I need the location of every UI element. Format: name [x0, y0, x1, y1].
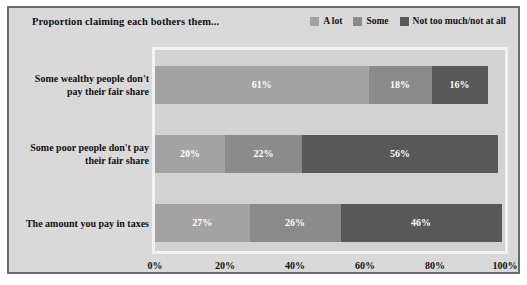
- x-axis-tick-label: 0%: [148, 260, 163, 271]
- chart-header: Proportion claiming each bothers them...…: [9, 8, 518, 42]
- bar-segment[interactable]: 27%: [155, 204, 250, 242]
- legend-item-2[interactable]: Not too much/not at all: [400, 17, 506, 27]
- bar-row-label-line2: their fair share: [23, 154, 149, 167]
- bar-segment[interactable]: 61%: [155, 66, 369, 104]
- bar-row-label-line2: pay their fair share: [23, 85, 149, 98]
- bar-row-label: Some poor people don't paytheir fair sha…: [23, 141, 149, 167]
- bar-row-label-line1: The amount you pay in taxes: [23, 216, 149, 229]
- bar-segment[interactable]: 18%: [369, 66, 432, 104]
- bar-segment-value: 22%: [254, 148, 274, 159]
- bar-segment-value: 20%: [180, 148, 200, 159]
- x-axis-tick-label: 20%: [215, 260, 235, 271]
- bar-row: The amount you pay in taxes27%26%46%: [9, 188, 518, 257]
- x-axis-tick-label: 100%: [493, 260, 518, 271]
- legend-swatch-icon: [353, 17, 362, 26]
- legend-item-0[interactable]: A lot: [310, 17, 342, 27]
- bar-segment[interactable]: 56%: [302, 135, 498, 173]
- legend-swatch-icon: [400, 17, 409, 26]
- legend-label: Not too much/not at all: [413, 17, 506, 27]
- bar-segment-value: 61%: [252, 79, 272, 90]
- chart-panel: Proportion claiming each bothers them...…: [9, 8, 518, 272]
- bar-row: Some wealthy people don'tpay their fair …: [9, 50, 518, 119]
- bar-segment-value: 18%: [390, 79, 410, 90]
- chart-title: Proportion claiming each bothers them...: [32, 16, 219, 27]
- x-axis-tick-label: 40%: [285, 260, 305, 271]
- legend-label: Some: [366, 17, 388, 27]
- bar-row-label: The amount you pay in taxes: [23, 216, 149, 229]
- bar-segment[interactable]: 26%: [250, 204, 341, 242]
- legend-label: A lot: [323, 17, 342, 27]
- x-axis-tick-label: 60%: [355, 260, 375, 271]
- bar-row-label-line1: Some poor people don't pay: [23, 141, 149, 154]
- bar-segment[interactable]: 46%: [341, 204, 502, 242]
- bar-segment-value: 27%: [192, 217, 212, 228]
- bar-rows: Some wealthy people don'tpay their fair …: [9, 47, 518, 254]
- x-axis-tick-label: 80%: [425, 260, 445, 271]
- bar-row: Some poor people don't paytheir fair sha…: [9, 119, 518, 188]
- x-axis: 0%20%40%60%80%100%: [155, 260, 505, 276]
- chart-legend: A lotSomeNot too much/not at all: [310, 17, 506, 27]
- stacked-bar: 61%18%16%: [155, 66, 488, 104]
- bar-segment-value: 56%: [390, 148, 410, 159]
- bar-row-label-line1: Some wealthy people don't: [23, 72, 149, 85]
- bar-segment-value: 46%: [411, 217, 431, 228]
- bar-segment[interactable]: 20%: [155, 135, 225, 173]
- bar-segment[interactable]: 22%: [225, 135, 302, 173]
- bar-segment-value: 16%: [450, 79, 470, 90]
- stacked-bar: 20%22%56%: [155, 135, 498, 173]
- stacked-bar: 27%26%46%: [155, 204, 502, 242]
- legend-swatch-icon: [310, 17, 319, 26]
- bar-segment[interactable]: 16%: [432, 66, 488, 104]
- bar-segment-value: 26%: [285, 217, 305, 228]
- chart-page: Proportion claiming each bothers them...…: [0, 0, 527, 285]
- chart-frame: Proportion claiming each bothers them...…: [7, 6, 520, 274]
- legend-item-1[interactable]: Some: [353, 17, 388, 27]
- bar-row-label: Some wealthy people don'tpay their fair …: [23, 72, 149, 98]
